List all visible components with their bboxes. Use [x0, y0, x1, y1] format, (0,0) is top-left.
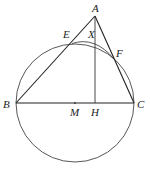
geometry-diagram: A E X F B C M H [0, 0, 150, 175]
segment-ac [95, 16, 134, 103]
label-a: A [91, 2, 99, 14]
label-c: C [137, 98, 145, 110]
label-e: E [62, 28, 70, 40]
label-h: H [90, 106, 100, 118]
label-x: X [87, 28, 96, 40]
point-m [74, 102, 76, 104]
label-m: M [69, 106, 80, 118]
label-f: F [115, 47, 123, 59]
label-b: B [3, 98, 10, 110]
segment-ab [16, 16, 95, 103]
